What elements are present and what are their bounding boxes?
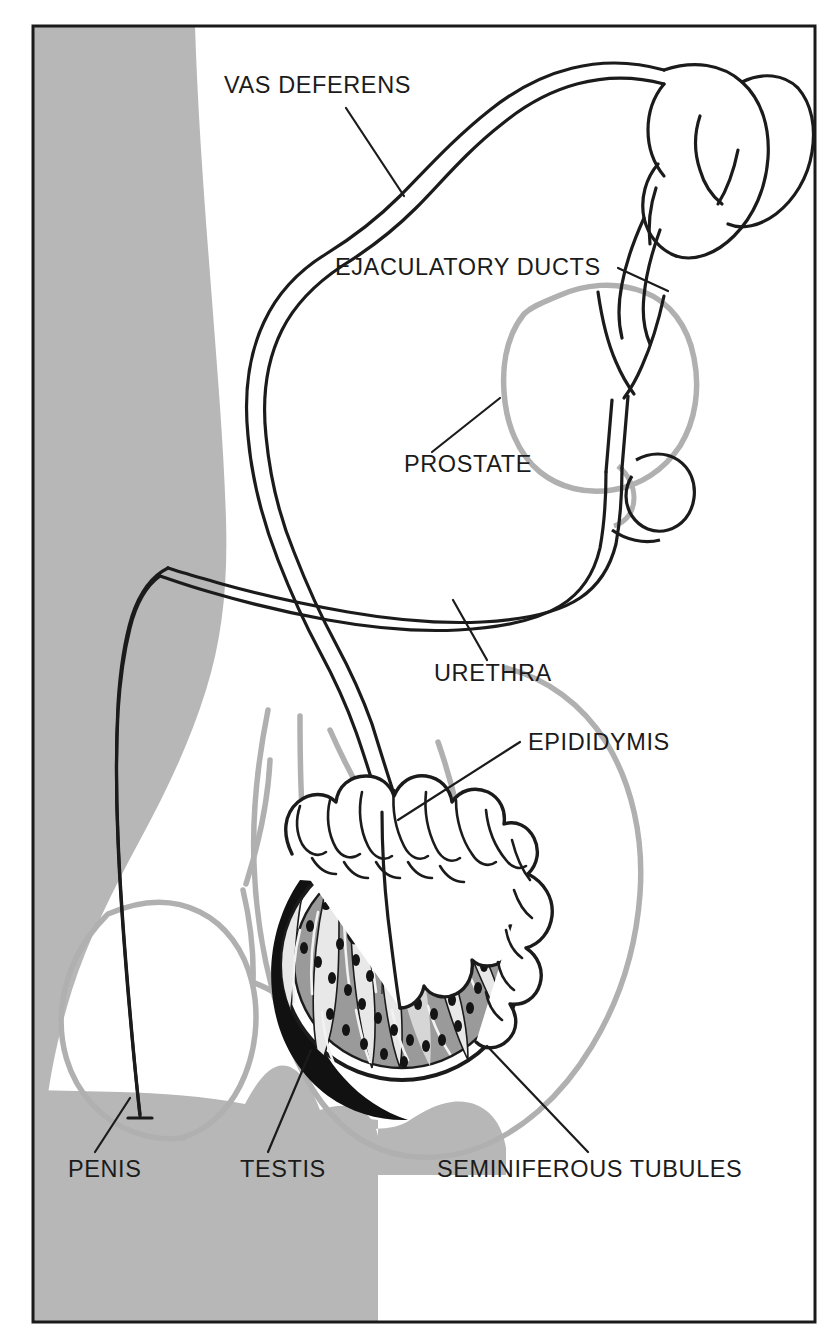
label-penis: PENIS: [68, 1156, 142, 1182]
anatomy-diagram-canvas: VAS DEFERENS EJACULATORY DUCTS PROSTATE …: [0, 0, 839, 1344]
label-ejaculatory-ducts: EJACULATORY DUCTS: [335, 254, 601, 280]
label-seminiferous-tubules: SEMINIFEROUS TUBULES: [437, 1156, 742, 1182]
label-prostate: PROSTATE: [404, 451, 532, 477]
label-vas-deferens: VAS DEFERENS: [224, 72, 411, 98]
anatomy-figure: VAS DEFERENS EJACULATORY DUCTS PROSTATE …: [0, 0, 839, 1344]
label-testis: TESTIS: [240, 1156, 326, 1182]
label-epididymis: EPIDIDYMIS: [528, 729, 670, 755]
label-urethra: URETHRA: [434, 660, 552, 686]
